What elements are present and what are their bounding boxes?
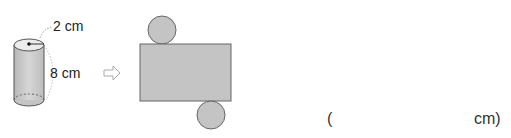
net-bottom-circle [197,101,225,129]
net-rectangle [140,44,231,101]
cylinder-body [14,45,44,100]
net-top-circle [148,16,176,44]
right-arrow-icon [104,66,120,80]
height-label: 8 cm [50,65,80,81]
answer-unit: cm) [474,110,501,128]
net [140,16,231,129]
radius-label: 2 cm [53,18,83,34]
cylinder-net-diagram: 2 cm 8 cm [0,0,511,138]
cylinder-bottom-front [14,100,44,106]
cylinder [14,27,53,106]
radius-leader [40,27,52,38]
answer-open-paren: ( [327,110,332,128]
